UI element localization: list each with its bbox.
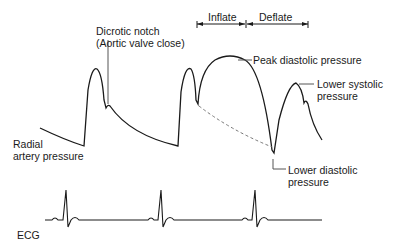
radial-artery-label: Radial artery pressure [13,138,84,162]
lower-diastolic-leader [273,159,286,169]
inflate-label: Inflate [208,11,237,23]
lower-systolic-label: Lower systolic pressure [317,78,383,102]
ecg-waveform [45,190,322,227]
ecg-label: ECG [17,229,40,241]
dicrotic-notch-label: Dicrotic notch (Aortic valve close) [96,25,185,49]
deflate-label: Deflate [259,11,292,23]
peak-diastolic-label: Peak diastolic pressure [253,54,362,66]
iabp-waveform-diagram [0,0,402,249]
lower-diastolic-label: Lower diastolic pressure [288,164,357,188]
unassisted-diastolic-curve [199,106,272,147]
